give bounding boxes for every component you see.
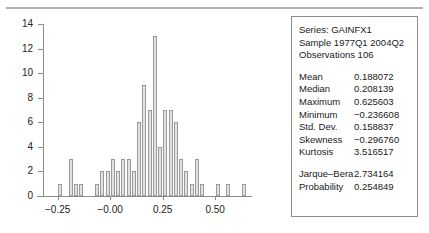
histogram-bar [242,184,246,196]
x-tick [215,196,216,200]
y-tick-label: 2 [2,166,33,176]
stat-row: Jarque–Bera2.734164 [299,168,417,181]
histogram-bar [106,171,110,196]
histogram-bar [174,122,178,196]
stat-row: Std. Dev.0.158837 [299,121,417,134]
histogram-bars [43,24,253,196]
y-tick-label: 14 [2,19,33,29]
x-tick [163,196,164,200]
stat-value: 3.516517 [354,146,394,159]
stat-label: Mean [299,71,354,84]
stat-value: 0.208139 [354,83,394,96]
x-tick-label: 0.50 [192,205,238,215]
x-axis-line [37,196,252,197]
histogram-bar [158,147,162,196]
histogram-bar [116,171,120,196]
stat-row: Minimum−0.236608 [299,109,417,122]
stat-label: Std. Dev. [299,121,354,134]
x-tick-label: −0.25 [35,205,81,215]
stat-label: Skewness [299,134,354,147]
stat-value: 0.254849 [354,181,394,194]
y-tick-label: 8 [2,93,33,103]
x-tick [110,196,111,200]
histogram-bar [153,36,157,196]
stat-value: −0.296760 [354,134,399,147]
stat-row: Skewness−0.296760 [299,134,417,147]
x-tick [58,196,59,200]
stat-label: Median [299,83,354,96]
histogram-bar [163,110,167,196]
histogram-bar [169,110,173,196]
stat-label: Jarque–Bera [299,168,354,181]
histogram-bar [74,184,78,196]
histogram-bar [137,122,141,196]
histogram-bar [142,85,146,196]
stat-value: 0.158837 [354,121,394,134]
histogram-bar [226,184,230,196]
stat-row: Mean0.188072 [299,71,417,84]
stats-spacer-1 [299,62,417,71]
histogram-bar [132,171,136,196]
statistics-box: Series: GAINFX1 Sample 1977Q1 2004Q2 Obs… [291,16,418,217]
observations-line: Observations 106 [299,49,417,62]
histogram-bar [195,159,199,196]
normality-test-rows: Jarque–Bera2.734164Probability0.254849 [299,168,417,193]
y-tick-label: 4 [2,142,33,152]
sample-range-line: Sample 1977Q1 2004Q2 [299,37,417,50]
histogram-bar [216,184,220,196]
histogram-bar [200,184,204,196]
histogram-bar [190,184,194,196]
stat-row: Maximum0.625603 [299,96,417,109]
y-tick-label: 10 [2,68,33,78]
y-tick-label: 0 [2,191,33,201]
summary-statistics-rows: Mean0.188072Median0.208139Maximum0.62560… [299,71,417,159]
histogram-bar [121,159,125,196]
y-tick-label: 12 [2,44,33,54]
x-tick-label: 0.25 [140,205,186,215]
stat-label: Kurtosis [299,146,354,159]
stat-row: Kurtosis3.516517 [299,146,417,159]
y-tick-label: 6 [2,117,33,127]
stat-value: −0.236608 [354,109,399,122]
histogram-bar [184,171,188,196]
histogram-bar [95,184,99,196]
stat-label: Minimum [299,109,354,122]
stats-spacer-2 [299,159,417,168]
x-tick-label: −0.00 [87,205,133,215]
histogram-bar [111,159,115,196]
stat-value: 0.625603 [354,96,394,109]
series-name-line: Series: GAINFX1 [299,24,417,37]
histogram-bar [148,110,152,196]
histogram-bar [127,159,131,196]
stat-row: Median0.208139 [299,83,417,96]
histogram-bar [179,159,183,196]
stat-value: 2.734164 [354,168,394,181]
stat-label: Probability [299,181,354,194]
histogram-bar [58,184,62,196]
histogram-bar [69,159,73,196]
histogram-bar [79,184,83,196]
histogram-bar [100,171,104,196]
stat-label: Maximum [299,96,354,109]
y-tick [38,196,43,197]
stat-value: 0.188072 [354,71,394,84]
histogram-plot: 02468101214 −0.25−0.000.250.50 [0,0,260,233]
stat-row: Probability0.254849 [299,181,417,194]
